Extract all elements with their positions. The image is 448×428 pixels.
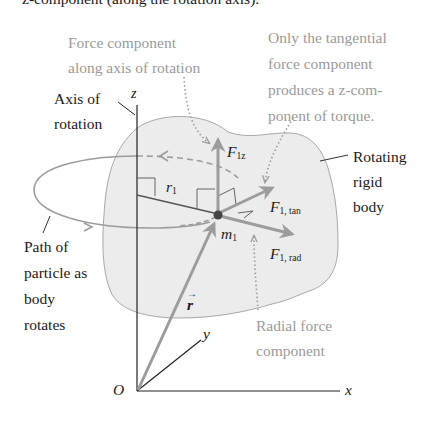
axis-component-note: Force component along axis of rotation <box>68 30 200 80</box>
z-axis-label: z <box>131 87 136 101</box>
axis-of-rotation-label: Axis of rotation <box>54 86 102 136</box>
f1rad-subscript: 1, rad <box>279 252 301 263</box>
f1rad-label: F1, rad <box>270 246 301 263</box>
tangential-line-1: Only the tangential <box>268 25 387 51</box>
mass-particle <box>214 211 223 220</box>
path-label-line-3: body <box>24 286 87 312</box>
m1-symbol: m <box>221 225 232 242</box>
axis-label-line-1: Axis of <box>54 86 102 111</box>
r1-label: r1 <box>166 179 177 196</box>
f1tan-label: F1, tan <box>270 199 301 216</box>
rigid-body-label: Rotating rigid body <box>353 144 406 219</box>
path-label-line-1: Path of <box>24 234 87 260</box>
x-axis-label: x <box>345 382 352 398</box>
path-of-particle-label: Path of particle as body rotates <box>24 234 87 338</box>
rigid-body-line-3: body <box>353 194 406 219</box>
f1z-subscript: 1z <box>236 150 245 161</box>
axis-component-line-2: along axis of rotation <box>68 55 200 80</box>
origin-label: O <box>113 382 124 398</box>
tangential-line-3: produces a z-com- <box>268 77 387 103</box>
m1-subscript: 1 <box>232 232 237 243</box>
y-axis <box>137 340 201 391</box>
tangential-note: Only the tangential force component prod… <box>268 25 387 129</box>
path-label-line-2: particle as <box>24 260 87 286</box>
tangential-line-2: force component <box>268 51 387 77</box>
tangential-line-4: ponent of torque. <box>268 103 387 129</box>
rigid-body-line-1: Rotating <box>353 144 406 169</box>
r1-subscript: 1 <box>172 185 177 196</box>
f1z-label: F1z <box>227 144 246 161</box>
r-vector-label: →r <box>187 297 193 313</box>
radial-line-1: Radial force <box>256 313 332 338</box>
f1tan-subscript: 1, tan <box>279 205 300 216</box>
radial-line-2: component <box>256 338 332 363</box>
orbit-arrow-front <box>84 223 92 231</box>
rigid-body-line-2: rigid <box>353 169 406 194</box>
axis-component-line-1: Force component <box>68 30 200 55</box>
y-axis-label: y <box>203 326 210 342</box>
path-label-line-4: rotates <box>24 312 87 338</box>
axis-label-line-2: rotation <box>54 111 102 136</box>
m1-label: m1 <box>221 226 237 243</box>
radial-note: Radial force component <box>256 313 332 363</box>
